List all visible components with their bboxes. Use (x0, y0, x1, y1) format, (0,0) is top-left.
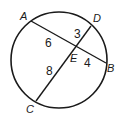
point-label-d: D (93, 12, 101, 24)
circle (11, 12, 107, 108)
diagram-canvas: A D B C E 6 3 4 8 (0, 0, 120, 119)
circle-chords-diagram: A D B C E 6 3 4 8 (0, 0, 120, 119)
segment-label-ce: 8 (46, 64, 53, 78)
point-label-c: C (26, 103, 34, 115)
segment-label-ae: 6 (45, 36, 52, 50)
point-label-a: A (19, 10, 27, 22)
point-label-b: B (107, 62, 114, 74)
point-label-e: E (70, 52, 78, 64)
segment-label-eb: 4 (84, 56, 91, 70)
segment-label-de: 3 (74, 27, 81, 41)
